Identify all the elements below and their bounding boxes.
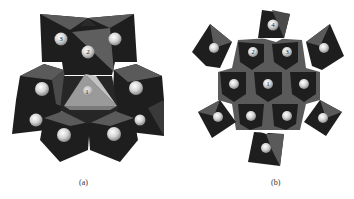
atom-label-2: 2 bbox=[251, 48, 255, 56]
atom-sphere bbox=[35, 82, 49, 96]
atom-label-3: 3 bbox=[59, 35, 63, 43]
panel-b-caption: (b) bbox=[271, 178, 280, 187]
atom-sphere bbox=[229, 79, 239, 89]
atom-sphere bbox=[261, 143, 271, 153]
panel-a-caption: (a) bbox=[79, 178, 88, 187]
atom-sphere bbox=[318, 113, 328, 123]
polyhedral-structure-figure: 3 2 1 bbox=[0, 0, 354, 199]
atom-sphere bbox=[246, 111, 256, 121]
atom-sphere bbox=[282, 111, 292, 121]
atom-label-1: 1 bbox=[85, 88, 89, 96]
atom-sphere bbox=[319, 43, 329, 53]
panel-b-structure: 4 2 3 1 bbox=[192, 10, 344, 166]
atom-sphere bbox=[209, 43, 219, 53]
atom-sphere bbox=[30, 114, 43, 127]
atom-sphere bbox=[109, 33, 122, 46]
atom-sphere bbox=[129, 81, 143, 95]
tetrahedron-face bbox=[64, 106, 117, 110]
atom-label-2: 2 bbox=[86, 48, 90, 56]
atom-sphere bbox=[107, 127, 121, 141]
atom-sphere bbox=[135, 115, 146, 126]
atom-label-1: 1 bbox=[266, 80, 270, 88]
atom-sphere bbox=[57, 128, 71, 142]
atom-sphere bbox=[299, 79, 309, 89]
atom-sphere bbox=[213, 112, 223, 122]
atom-label-3: 3 bbox=[285, 48, 289, 56]
atom-label-4: 4 bbox=[271, 21, 275, 29]
panel-a-structure: 3 2 1 bbox=[12, 14, 164, 162]
